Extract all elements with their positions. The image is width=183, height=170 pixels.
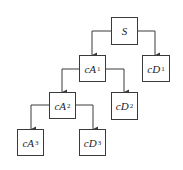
node-subscript: 2: [130, 102, 134, 110]
node-subscript: 1: [97, 65, 101, 73]
node-label: cD: [84, 137, 97, 149]
node-signal-s: S: [111, 17, 138, 45]
edge-ca1-to-ca2: [62, 69, 79, 92]
node-subscript: 2: [67, 102, 71, 110]
node-label: cA: [54, 100, 66, 112]
node-ca3: cA3: [17, 129, 44, 156]
node-label: cA: [22, 137, 34, 149]
node-label: cA: [84, 63, 96, 75]
node-ca2: cA2: [49, 92, 76, 119]
decomposition-tree-diagram: S cA1 cD1 cA2 cD2 cA3 cD3: [0, 0, 183, 170]
node-subscript: 3: [98, 139, 102, 147]
node-cd2: cD2: [111, 92, 138, 120]
node-ca1: cA1: [79, 55, 106, 82]
node-subscript: 1: [161, 65, 165, 73]
node-label: S: [122, 25, 128, 37]
edge-s-to-cd1: [138, 31, 155, 55]
node-subscript: 3: [35, 139, 39, 147]
edge-ca1-to-cd2: [106, 69, 124, 92]
node-cd3: cD3: [79, 129, 106, 156]
edge-ca2-to-ca3: [31, 105, 49, 129]
node-label: cD: [147, 63, 160, 75]
node-cd1: cD1: [142, 55, 170, 82]
edge-ca2-to-cd3: [76, 105, 93, 129]
edge-s-to-ca1: [92, 31, 111, 55]
node-label: cD: [116, 100, 129, 112]
